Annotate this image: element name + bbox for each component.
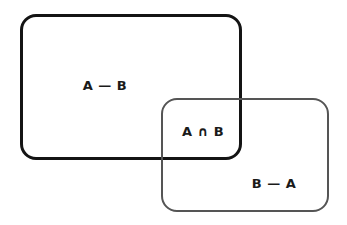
region-intersection-label: A ∩ B xyxy=(182,124,224,139)
region-a-minus-b-label: A — B xyxy=(83,78,128,93)
region-b-minus-a-label: B — A xyxy=(252,176,297,191)
set-b-rectangle xyxy=(161,98,329,212)
